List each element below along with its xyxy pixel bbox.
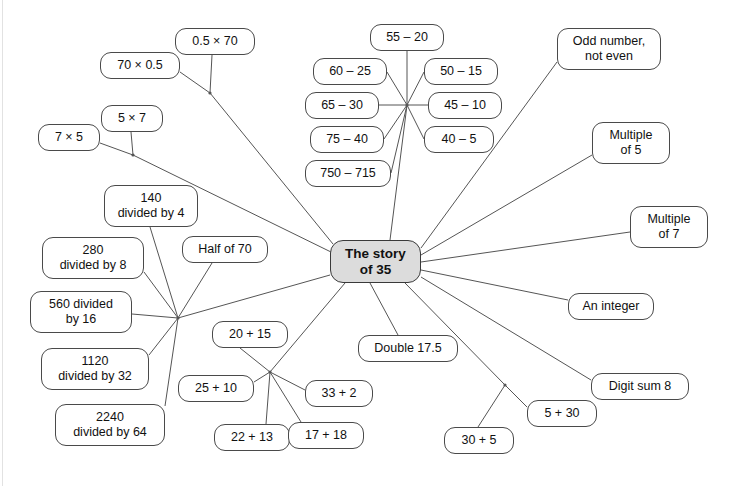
center-node[interactable]: The story of 35 xyxy=(330,240,421,283)
node-70-times-0-5[interactable]: 70 × 0.5 xyxy=(100,52,180,79)
node-25-plus-10[interactable]: 25 + 10 xyxy=(178,375,254,402)
node-multiple-of-7[interactable]: Multiple of 7 xyxy=(630,206,708,248)
hub-multiply-lower xyxy=(131,153,134,156)
node-140-divided-by-4[interactable]: 140 divided by 4 xyxy=(104,185,198,227)
node-65-minus-30[interactable]: 65 – 30 xyxy=(305,92,379,119)
edge-20-plus-15 xyxy=(240,348,270,372)
node-0-5-times-70[interactable]: 0.5 × 70 xyxy=(175,28,255,55)
node-55-minus-20[interactable]: 55 – 20 xyxy=(370,24,444,51)
node-22-plus-13[interactable]: 22 + 13 xyxy=(214,424,290,451)
node-digit-sum-8[interactable]: Digit sum 8 xyxy=(591,373,689,400)
node-multiple-of-5[interactable]: Multiple of 5 xyxy=(592,122,670,164)
node-20-plus-15[interactable]: 20 + 15 xyxy=(212,321,288,348)
edge-hub-sub-ctr xyxy=(390,105,407,240)
node-40-minus-5[interactable]: 40 – 5 xyxy=(424,126,494,153)
edge-25-plus-10 xyxy=(254,372,270,382)
node-17-plus-18[interactable]: 17 + 18 xyxy=(288,422,364,449)
node-30-plus-5[interactable]: 30 + 5 xyxy=(444,427,514,454)
edge-22-plus-13 xyxy=(266,372,270,424)
node-5-plus-30[interactable]: 5 + 30 xyxy=(527,400,597,427)
edge-50-15 xyxy=(407,72,424,105)
node-45-minus-10[interactable]: 45 – 10 xyxy=(428,92,502,119)
hub-add xyxy=(268,370,271,373)
hub-subtract xyxy=(405,103,408,106)
edge-odd-number xyxy=(421,62,557,248)
node-60-minus-25[interactable]: 60 – 25 xyxy=(313,58,387,85)
node-half-of-70[interactable]: Half of 70 xyxy=(182,236,268,263)
node-odd-number[interactable]: Odd number, not even xyxy=(557,28,661,70)
edge-2240-div-64 xyxy=(165,318,178,406)
edge-an-integer xyxy=(421,270,568,300)
hub-plus-pair xyxy=(503,383,506,386)
edge-hub-pair-ctr xyxy=(405,283,505,385)
hub-multiply-upper xyxy=(208,91,211,94)
edge-560-div-16 xyxy=(132,314,178,318)
node-280-divided-by-8[interactable]: 280 divided by 8 xyxy=(42,237,144,279)
edge-70x0-5-to-hub xyxy=(180,72,210,93)
edge-60-25 xyxy=(387,72,407,105)
edge-double-17-5 xyxy=(370,283,398,335)
page-edge-line xyxy=(2,0,3,486)
edge-5-plus-30 xyxy=(505,385,527,407)
node-2240-divided-by-64[interactable]: 2240 divided by 64 xyxy=(55,404,165,446)
edge-280-div-8 xyxy=(144,272,178,318)
edge-digit-sum-8 xyxy=(421,277,591,380)
node-an-integer[interactable]: An integer xyxy=(568,293,654,320)
node-33-plus-2[interactable]: 33 + 2 xyxy=(305,380,373,407)
edge-5x7-to-hub xyxy=(131,132,133,155)
node-double-17-5[interactable]: Double 17.5 xyxy=(358,335,458,362)
edge-750-715 xyxy=(391,105,407,173)
edge-7x5-to-hub xyxy=(100,143,133,155)
edge-multiple-of-5 xyxy=(421,155,592,255)
node-7-times-5[interactable]: 7 × 5 xyxy=(38,124,100,151)
node-5-times-7[interactable]: 5 × 7 xyxy=(101,105,163,132)
edge-30-plus-5 xyxy=(478,385,505,427)
node-50-minus-15[interactable]: 50 – 15 xyxy=(424,58,498,85)
node-750-minus-715[interactable]: 750 – 715 xyxy=(305,160,391,187)
edge-0-5x70-to-hub xyxy=(210,55,212,93)
node-560-divided-by-16[interactable]: 560 divided by 16 xyxy=(30,291,132,333)
node-1120-divided-by-32[interactable]: 1120 divided by 32 xyxy=(41,348,149,390)
mindmap-canvas: 0.5 × 7070 × 0.55 × 77 × 555 – 2060 – 25… xyxy=(0,0,741,486)
node-75-minus-40[interactable]: 75 – 40 xyxy=(310,126,384,153)
edge-40-5 xyxy=(407,105,424,139)
edge-140-div-4 xyxy=(150,227,178,318)
hub-divide xyxy=(176,316,179,319)
